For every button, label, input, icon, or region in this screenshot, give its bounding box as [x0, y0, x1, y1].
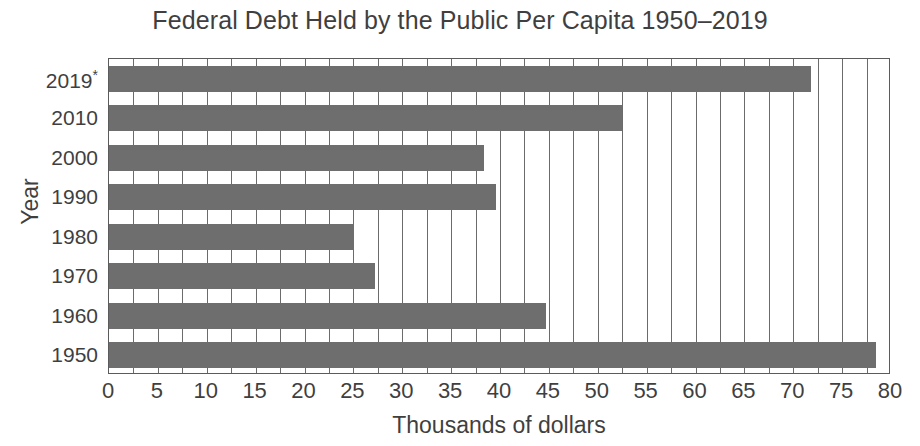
- footnote-asterisk: *: [93, 67, 98, 83]
- x-tick-label-40: 40: [487, 378, 511, 404]
- x-tick-label-55: 55: [633, 378, 657, 404]
- bar-2010: [109, 105, 622, 131]
- x-tick-label-65: 65: [731, 378, 755, 404]
- bar-row: [109, 303, 889, 329]
- y-tick-label-1990: 1990: [51, 186, 98, 207]
- scan-artifact-text: [150, 436, 770, 445]
- x-tick-label-20: 20: [291, 378, 315, 404]
- y-tick-label-1960: 1960: [51, 305, 98, 326]
- x-axis-tick-labels: 05101520253035404550556065707580: [0, 378, 920, 408]
- bar-row: [109, 184, 889, 210]
- x-tick-label-45: 45: [536, 378, 560, 404]
- plot-area: [108, 58, 890, 374]
- y-tick-label-2010: 2010: [51, 107, 98, 128]
- bar-1950: [109, 342, 876, 368]
- bar-1980: [109, 224, 354, 250]
- bar-row: [109, 224, 889, 250]
- bar-1990: [109, 184, 496, 210]
- y-tick-label-2000: 2000: [51, 147, 98, 168]
- bar-2019: [109, 66, 811, 92]
- x-tick-label-0: 0: [102, 378, 114, 404]
- bar-row: [109, 66, 889, 92]
- bar-row: [109, 263, 889, 289]
- bar-series: [109, 59, 889, 373]
- bar-1960: [109, 303, 546, 329]
- chart-figure: Federal Debt Held by the Public Per Capi…: [0, 0, 920, 446]
- x-tick-label-80: 80: [878, 378, 902, 404]
- x-tick-label-15: 15: [242, 378, 266, 404]
- bar-row: [109, 145, 889, 171]
- x-tick-label-60: 60: [682, 378, 706, 404]
- chart-title: Federal Debt Held by the Public Per Capi…: [0, 6, 920, 35]
- bar-2000: [109, 145, 484, 171]
- y-tick-label-1970: 1970: [51, 265, 98, 286]
- bar-1970: [109, 263, 375, 289]
- x-tick-label-30: 30: [389, 378, 413, 404]
- y-tick-label-2019: 2019*: [46, 68, 98, 91]
- bar-row: [109, 342, 889, 368]
- y-axis-tick-labels: 2019*2010200019901980197019601950: [0, 58, 104, 374]
- bar-row: [109, 105, 889, 131]
- x-tick-label-70: 70: [780, 378, 804, 404]
- x-tick-label-50: 50: [585, 378, 609, 404]
- y-tick-label-1950: 1950: [51, 344, 98, 365]
- y-tick-label-1980: 1980: [51, 226, 98, 247]
- x-tick-label-75: 75: [829, 378, 853, 404]
- x-tick-label-35: 35: [438, 378, 462, 404]
- x-tick-label-10: 10: [194, 378, 218, 404]
- x-tick-label-5: 5: [151, 378, 163, 404]
- x-tick-label-25: 25: [340, 378, 364, 404]
- x-axis-title: Thousands of dollars: [108, 412, 890, 439]
